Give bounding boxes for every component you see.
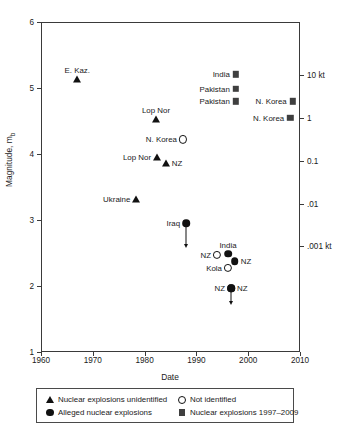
data-point-label: Ukraine [103, 194, 130, 203]
yield-axis-tick [300, 204, 304, 205]
data-point-label: Pakistan [200, 97, 230, 106]
data-point-label: N. Korea [256, 97, 287, 106]
y-axis-tick-label: 6 [29, 18, 34, 27]
legend-item-label: Not identified [190, 395, 236, 404]
legend-item: Nuclear explosions 1997–2009 [177, 408, 298, 417]
y-axis-tick-label: 5 [29, 84, 34, 93]
data-point-triangle [132, 195, 140, 202]
x-axis-tick-label: 1990 [187, 356, 205, 365]
data-point-label: NZ [201, 250, 212, 259]
data-point-triangle [152, 116, 160, 123]
yield-axis-tick-label: 0.1 [307, 156, 318, 165]
y-axis-tick-label: 4 [29, 150, 34, 159]
x-axis-title: Date [0, 372, 340, 382]
y-axis-title-text: Magnitude, m [4, 136, 14, 187]
legend: Nuclear explosions unidentifiedNot ident… [36, 388, 294, 423]
data-point-square [233, 85, 239, 91]
legend-item-label: Nuclear explosions 1997–2009 [190, 408, 298, 417]
legend-item: Not identified [177, 395, 236, 404]
data-point-square [290, 98, 296, 104]
yield-axis-tick-label: 1 [307, 113, 312, 122]
y-axis-title: Magnitude, mb [4, 133, 16, 187]
legend-symbol-circle-filled-icon [45, 409, 55, 416]
legend-symbol-triangle-icon [45, 396, 55, 403]
yield-axis-tick-label: .01 [307, 199, 318, 208]
yield-axis-tick [300, 246, 304, 247]
data-point-label: E. Kaz. [65, 66, 90, 75]
nuclear-explosions-magnitude-scatter-chart: 12345610 kt10.1.01.001 kt196019701980199… [0, 0, 340, 440]
y-axis-tick [37, 154, 41, 155]
data-point-square [233, 98, 239, 104]
data-point-label: Pakistan [200, 84, 230, 93]
data-point-label: Lop Nor [123, 152, 151, 161]
x-axis-tick-label: 2000 [239, 356, 257, 365]
y-axis-title-subscript: b [9, 133, 16, 137]
yield-axis-tick [300, 118, 304, 119]
data-point-label: N. Korea [146, 135, 177, 144]
y-axis-tick [37, 88, 41, 89]
legend-item: Alleged nuclear explosions [45, 408, 152, 417]
data-point-label: NZ [215, 283, 226, 292]
y-axis-tick-label: 2 [29, 282, 34, 291]
data-point-triangle [162, 159, 170, 166]
legend-symbol-circle-open-icon [177, 396, 187, 404]
yield-axis-tick-label: .001 kt [307, 242, 332, 251]
yield-axis-tick-label: 10 kt [307, 70, 325, 79]
x-axis-tick-label: 1970 [84, 356, 102, 365]
data-point-circle-filled [227, 284, 235, 292]
data-point-square [233, 71, 239, 77]
legend-item-label: Nuclear explosions unidentified [58, 395, 167, 404]
data-point-label: NZ [241, 256, 252, 265]
data-point-triangle [153, 153, 161, 160]
data-point-label: Iraq [166, 219, 180, 228]
data-point-label: India [213, 70, 230, 79]
legend-item-label: Alleged nuclear explosions [58, 408, 152, 417]
data-point-label: Lop Nor [142, 106, 170, 115]
data-point-triangle [73, 76, 81, 83]
legend-item: Nuclear explosions unidentified [45, 395, 167, 404]
data-point-circle-filled [224, 250, 232, 258]
x-axis-tick-label: 1960 [32, 356, 50, 365]
data-point-label: NZ [172, 158, 183, 167]
y-axis-tick [37, 220, 41, 221]
y-axis-tick [37, 286, 41, 287]
legend-symbol-square-icon [177, 409, 187, 415]
yield-axis-tick [300, 75, 304, 76]
data-point-label: N. Korea [253, 113, 284, 122]
y-axis-tick [37, 22, 41, 23]
data-point-label: Kola [206, 264, 222, 273]
data-point-label: India [219, 240, 236, 249]
y-axis-tick-label: 3 [29, 216, 34, 225]
data-point-circle-filled [231, 257, 239, 265]
yield-axis-tick [300, 161, 304, 162]
uncertainty-arrow-head [229, 301, 233, 305]
x-axis-tick-label: 1980 [135, 356, 153, 365]
uncertainty-arrow-head [184, 244, 188, 248]
data-point-circle-filled [182, 220, 190, 228]
x-axis-tick-label: 2010 [291, 356, 309, 365]
data-point-square [287, 114, 293, 120]
data-point-label: NZ [237, 283, 248, 292]
